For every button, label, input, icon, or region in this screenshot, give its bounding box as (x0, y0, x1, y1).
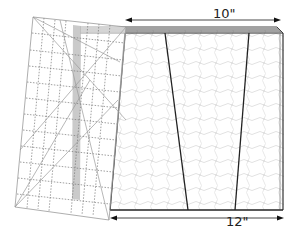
ruler-strip (72, 25, 81, 200)
arrow-left-icon (125, 18, 132, 23)
top-dimension (125, 18, 281, 23)
arrow-right-icon (277, 216, 284, 221)
bottom-measurement-label: 12" (226, 214, 249, 229)
arrow-left-icon (110, 216, 117, 221)
top-measurement-label: 10" (213, 6, 236, 21)
diagram-canvas (0, 0, 295, 231)
ruler (15, 17, 126, 220)
fabric-piece (110, 30, 284, 210)
arrow-right-icon (274, 18, 281, 23)
